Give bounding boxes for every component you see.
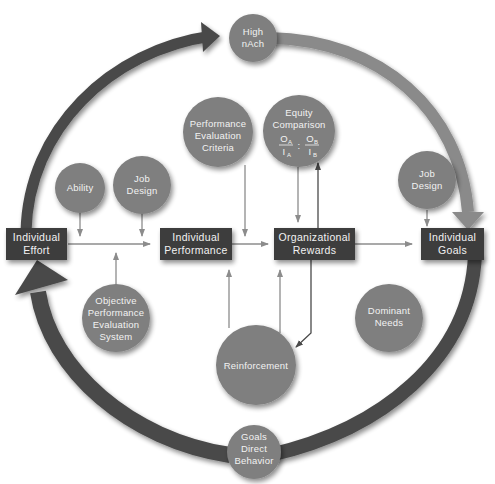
organizational-rewards-label-line1: Organizational xyxy=(279,231,351,243)
individual-goals-label-line1: Individual xyxy=(429,231,476,243)
ratio-separator: : xyxy=(298,140,301,151)
job-design-right-label-line2: Design xyxy=(412,180,443,191)
ratio-a-numerator: O xyxy=(280,133,288,144)
job-design-right-label-line1: Job xyxy=(419,168,435,179)
reinforcement-label: Reinforcement xyxy=(224,360,289,371)
gdb-label-line1: Goals xyxy=(241,431,267,442)
individual-goals-label-line2: Goals xyxy=(438,244,467,256)
ratio-a-denominator: I xyxy=(283,146,286,157)
job-design-left-label-line2: Design xyxy=(127,185,158,196)
arrowhead-icon xyxy=(452,212,484,230)
gdb-label-line3: Behavior xyxy=(234,455,273,466)
arrowhead-icon xyxy=(15,260,68,295)
perf-criteria-label-line3: Criteria xyxy=(202,142,235,153)
ope-system-label-line3: Evaluation xyxy=(93,319,139,330)
organizational-rewards-label-line2: Rewards xyxy=(293,244,337,256)
dominant-needs-label-line2: Needs xyxy=(375,317,404,328)
ratio-b-denominator-sub: B xyxy=(313,152,317,158)
equity-label-line1: Equity xyxy=(285,107,313,118)
connector-rewards-to-reinforcement xyxy=(296,258,311,347)
ope-system-label-line4: System xyxy=(100,331,133,342)
motivation-theories-diagram: High nAch Ability Job Design Performance… xyxy=(0,0,495,484)
high-nach-label-line1: High xyxy=(243,26,263,37)
ratio-b-denominator: I xyxy=(309,146,312,157)
equity-label-line2: Comparison xyxy=(272,119,325,130)
perf-criteria-label-line1: Performance xyxy=(190,118,247,129)
gdb-label-line2: Direct xyxy=(241,443,267,454)
ratio-a-denominator-sub: A xyxy=(287,152,291,158)
dominant-needs-label-line1: Dominant xyxy=(368,305,410,316)
ratio-b-numerator: O xyxy=(306,133,314,144)
perf-criteria-label-line2: Evaluation xyxy=(195,130,241,141)
ope-system-label-line1: Objective xyxy=(95,295,136,306)
ability-label: Ability xyxy=(67,182,94,193)
individual-effort-label-line1: Individual xyxy=(13,231,60,243)
ratio-b-numerator-sub: B xyxy=(314,139,318,145)
individual-performance-label-line1: Individual xyxy=(172,231,219,243)
ratio-a-numerator-sub: A xyxy=(288,139,292,145)
individual-performance-label-line2: Performance xyxy=(164,244,227,256)
arrowhead-icon xyxy=(201,22,220,52)
job-design-left-label-line1: Job xyxy=(134,173,150,184)
individual-effort-label-line2: Effort xyxy=(23,244,50,256)
ope-system-label-line2: Performance xyxy=(88,307,145,318)
cycle-arrow-goals-to-behavior xyxy=(270,255,475,455)
high-nach-label-line2: nAch xyxy=(242,38,264,49)
circle-equity-comparison xyxy=(263,95,335,167)
